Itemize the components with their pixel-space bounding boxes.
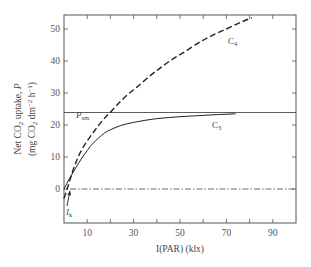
x-tick-50: 50 bbox=[175, 228, 185, 238]
psm-label: Psm bbox=[75, 110, 89, 121]
chart-container: 10 30 50 70 90 0 10 20 30 40 50 I(PAR) (… bbox=[0, 0, 311, 267]
c3-curve bbox=[64, 114, 236, 189]
y-axis-label-line2: (mg CO2 dm−2 h−1) bbox=[26, 82, 39, 156]
y-tick-10: 10 bbox=[51, 152, 61, 162]
y-tick-40: 40 bbox=[51, 56, 61, 66]
c4-label: C4 bbox=[228, 36, 238, 47]
c4-curve bbox=[64, 18, 252, 199]
ik-arrow-head-icon bbox=[68, 190, 72, 196]
y-tick-30: 30 bbox=[51, 88, 61, 98]
y-axis-label-line1: Net CO2 uptake, P bbox=[13, 83, 25, 154]
x-ticks bbox=[87, 15, 273, 223]
y-tick-0: 0 bbox=[55, 184, 60, 194]
x-tick-10: 10 bbox=[82, 228, 92, 238]
y-axis-label: Net CO2 uptake, P bbox=[13, 83, 25, 154]
c3-label: C3 bbox=[212, 120, 221, 131]
x-tick-70: 70 bbox=[222, 228, 232, 238]
y-tick-20: 20 bbox=[51, 120, 61, 130]
y-tick-50: 50 bbox=[51, 24, 61, 34]
x-tick-90: 90 bbox=[268, 228, 278, 238]
chart-svg: 10 30 50 70 90 0 10 20 30 40 50 I(PAR) (… bbox=[0, 0, 311, 267]
y-axis-label-2: (mg CO2 dm−2 h−1) bbox=[26, 82, 39, 156]
x-axis-label: I(PAR) (klx) bbox=[156, 244, 204, 255]
y-ticks bbox=[64, 29, 296, 189]
x-tick-30: 30 bbox=[129, 228, 139, 238]
ik-label: Ik bbox=[65, 207, 73, 218]
plot-frame bbox=[64, 15, 296, 223]
